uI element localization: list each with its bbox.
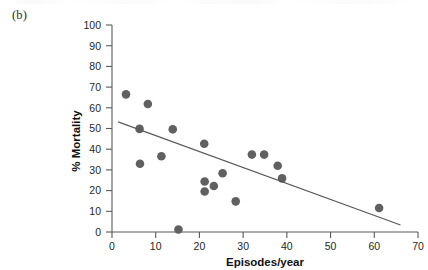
y-tick-label: 50 <box>89 122 101 134</box>
x-tick-label: 50 <box>325 240 337 252</box>
data-point <box>122 90 131 99</box>
y-tick-label: 100 <box>83 19 101 31</box>
data-point <box>200 177 209 186</box>
x-tick-label: 10 <box>150 240 162 252</box>
data-point <box>174 225 183 234</box>
y-tick-label: 70 <box>89 81 101 93</box>
data-points-group <box>122 90 384 234</box>
y-tick-label: 60 <box>89 102 101 114</box>
y-tick-label: 40 <box>89 143 101 155</box>
data-point <box>136 159 145 168</box>
y-tick-label: 10 <box>89 205 101 217</box>
data-point <box>260 150 269 159</box>
x-tick-label: 40 <box>281 240 293 252</box>
figure-panel-b: (b) 0102030405060708090100 0102030405060… <box>0 0 428 270</box>
x-tick-label: 70 <box>412 240 424 252</box>
y-tick-label: 30 <box>89 164 101 176</box>
x-tick-label: 60 <box>368 240 380 252</box>
x-tick-label: 0 <box>109 240 115 252</box>
data-point <box>157 152 166 161</box>
data-point <box>248 150 257 159</box>
y-tick-group: 0102030405060708090100 <box>83 19 112 238</box>
scatter-plot: 0102030405060708090100 010203040506070 E… <box>0 0 428 270</box>
y-tick-label: 90 <box>89 40 101 52</box>
data-point <box>273 161 282 170</box>
trend-line-group <box>118 122 400 225</box>
x-tick-label: 20 <box>194 240 206 252</box>
data-point <box>218 169 227 178</box>
data-point <box>168 125 177 134</box>
regression-line <box>118 122 400 225</box>
data-point <box>200 140 209 149</box>
axes-group <box>112 25 418 232</box>
data-point <box>375 204 384 213</box>
data-point <box>200 187 209 196</box>
y-tick-label: 0 <box>95 226 101 238</box>
x-axis-title: Episodes/year <box>226 256 305 268</box>
y-tick-label: 20 <box>89 184 101 196</box>
y-tick-label: 80 <box>89 60 101 72</box>
data-point <box>210 182 219 191</box>
y-axis-title: % Mortality <box>70 110 82 172</box>
data-point <box>144 100 153 109</box>
x-tick-label: 30 <box>237 240 249 252</box>
x-tick-group: 010203040506070 <box>109 232 424 252</box>
data-point <box>231 197 240 206</box>
